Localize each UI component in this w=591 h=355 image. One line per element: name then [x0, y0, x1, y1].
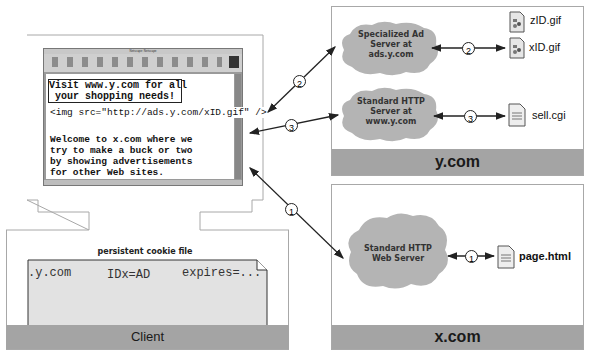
step-number: 1 [469, 254, 474, 264]
step-2-badge: 2 [293, 75, 306, 88]
step-3-badge: 3 [464, 110, 477, 123]
step-1-badge: 1 [465, 250, 478, 263]
step-number: 2 [466, 46, 471, 56]
step-number: 3 [289, 123, 294, 133]
flow-arrows [0, 0, 591, 355]
step-number: 3 [468, 114, 473, 124]
step-2-badge: 2 [462, 42, 475, 55]
step-number: 2 [297, 79, 302, 89]
step-number: 1 [289, 207, 294, 217]
step-3-badge: 3 [285, 119, 298, 132]
step-1-badge: 1 [285, 203, 298, 216]
